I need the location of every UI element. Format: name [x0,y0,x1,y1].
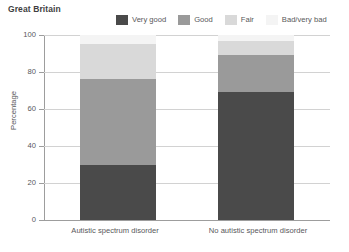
y-tick-label-20: 20 [4,179,36,187]
chart-container: Great Britain Very good Good Fair Bad/ve… [0,0,349,252]
y-tick-label-40: 40 [4,142,36,150]
bar-autistic-spectrum-disorder[interactable] [80,35,156,220]
bar-segment-good[interactable] [218,55,294,92]
y-tick-label-100: 100 [4,31,36,39]
bar-no-autistic-spectrum-disorder[interactable] [218,35,294,220]
bar-segment-good[interactable] [80,79,156,164]
bar-segment-fair[interactable] [218,41,294,56]
bar-segment-very-good[interactable] [218,92,294,220]
y-tick-label-0: 0 [4,216,36,224]
bar-segment-fair[interactable] [80,44,156,79]
y-tick-label-60: 60 [4,105,36,113]
plot-wrapper: Percentage 100 80 60 40 20 0 [0,0,349,252]
y-tick-label-80: 80 [4,68,36,76]
x-axis-line [44,220,330,221]
x-tick-label-no-autistic-spectrum-disorder: No autistic spectrum disorder [168,226,348,235]
bar-segment-very-good[interactable] [80,165,156,221]
bar-segment-bad-very-bad[interactable] [80,35,156,44]
plot-area [44,35,330,220]
y-axis-labels: 100 80 60 40 20 0 [0,0,36,252]
